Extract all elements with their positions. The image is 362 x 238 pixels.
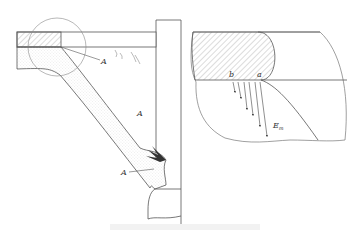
brace-weld (17, 47, 166, 189)
vertical-plate (156, 20, 181, 230)
crack-marks (115, 50, 140, 64)
left-panel: A A A (17, 18, 181, 230)
label-a-1: A (100, 57, 107, 66)
label-b: b (229, 70, 234, 79)
label-a-2: A (136, 109, 143, 118)
diagram-canvas: A A A b a Em (0, 0, 362, 238)
figure-caption-illegible (110, 224, 260, 230)
right-panel: b a Em (191, 32, 347, 142)
lower-body (148, 189, 181, 219)
label-a: a (257, 70, 262, 79)
label-a-3: A (120, 168, 127, 177)
hatched-section (17, 32, 61, 47)
